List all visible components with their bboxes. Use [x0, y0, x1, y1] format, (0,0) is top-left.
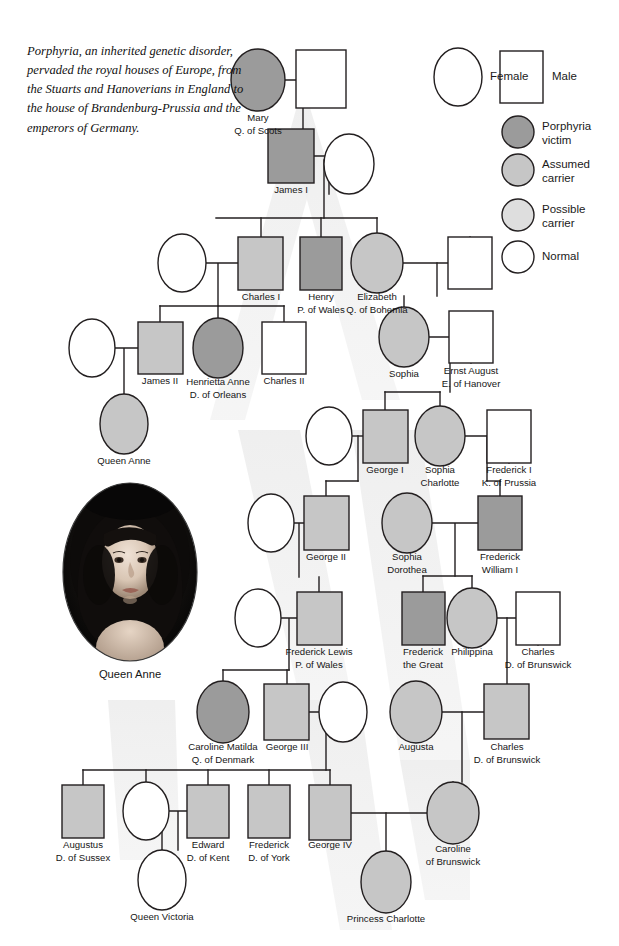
person-label-princess-charlotte: Princess Charlotte [347, 913, 425, 926]
person-node-elizabeth-q-of-bohemia[interactable] [351, 233, 403, 293]
person-node-george-i[interactable] [363, 410, 408, 463]
person-node-sophia-charlotte[interactable] [415, 406, 465, 466]
person-node-augusta[interactable] [390, 681, 442, 743]
legend-assumed-carrier-circle [502, 154, 534, 186]
person-node-augustus-d-of-sussex[interactable] [62, 785, 104, 838]
person-node-frederick-the-great[interactable] [402, 592, 445, 645]
person-node-charles-d-of-brunswick-sr[interactable] [516, 592, 560, 645]
person-label-george-i: George I [366, 464, 403, 477]
person-node-frederick-i-k-of-prussia[interactable] [487, 410, 531, 463]
person-node-edward-d-of-kent[interactable] [187, 785, 229, 838]
person-label-james-ii: James II [142, 375, 178, 388]
person-label-george-ii: George II [306, 551, 346, 564]
person-label-caroline-of-brunswick: Caroline of Brunswick [426, 843, 480, 868]
person-node-charles-d-of-brunswick-jr[interactable] [484, 684, 529, 739]
person-node-george-iv[interactable] [309, 785, 351, 840]
person-label-frederick-lewis-p-of-wales: Frederick Lewis P. of Wales [285, 646, 352, 671]
portrait-caption: Queen Anne [99, 668, 161, 680]
person-label-ernst-august-e-of-hanover: Ernst August E. of Hanover [442, 365, 501, 390]
person-label-henry-p-of-wales: Henry P. of Wales [297, 291, 344, 316]
legend-possible-carrier-circle [502, 199, 534, 231]
relationship-line [206, 263, 238, 306]
person-node-caroline-matilda-q-of-denmark[interactable] [197, 681, 249, 743]
person-node-sophia-dorothea[interactable] [382, 493, 432, 553]
person-label-frederick-i-k-of-prussia: Frederick I K. of Prussia [482, 464, 536, 489]
legend-label-male: Male [552, 70, 577, 84]
person-label-sophia-charlotte: Sophia Charlotte [421, 464, 460, 489]
person-node-james-ii-spouse[interactable] [69, 319, 115, 377]
person-label-sophia: Sophia [389, 368, 419, 381]
person-node-henry-p-of-wales[interactable] [300, 237, 342, 290]
person-label-augusta: Augusta [398, 741, 433, 754]
person-node-mary-spouse[interactable] [296, 50, 346, 108]
person-label-sophia-dorothea: Sophia Dorothea [387, 551, 426, 576]
legend-label-female: Female [490, 70, 528, 84]
person-node-queen-anne[interactable] [100, 394, 148, 454]
person-label-elizabeth-q-of-bohemia: Elizabeth Q. of Bohemia [346, 291, 407, 316]
person-label-frederick-d-of-york: Frederick D. of York [248, 839, 290, 864]
queen-anne-portrait [63, 468, 197, 676]
person-label-frederick-the-great: Frederick the Great [403, 646, 443, 671]
person-node-caroline-of-brunswick[interactable] [427, 782, 479, 844]
person-label-charles-ii: Charles II [263, 375, 304, 388]
person-label-george-iii: George III [266, 741, 309, 754]
person-node-frederick-lewis-spouse[interactable] [235, 589, 281, 647]
person-node-elizabeth-spouse[interactable] [448, 237, 492, 289]
person-node-charles-ii[interactable] [262, 322, 306, 374]
person-node-princess-charlotte[interactable] [361, 851, 411, 913]
person-node-george-i-spouse[interactable] [306, 407, 352, 465]
person-node-george-ii[interactable] [304, 496, 349, 550]
intro-caption: Porphyria, an inherited genetic disorder… [27, 42, 257, 138]
legend-victim-circle [502, 116, 534, 148]
legend-normal-circle [502, 241, 534, 273]
person-node-george-ii-spouse[interactable] [248, 494, 294, 552]
person-node-james-i-spouse[interactable] [324, 134, 374, 194]
person-node-frederick-lewis-p-of-wales[interactable] [297, 592, 342, 645]
legend-label-possible-carrier: Possible carrier [542, 203, 585, 230]
person-label-george-iv: George IV [308, 839, 352, 852]
person-label-charles-d-of-brunswick-jr: Charles D. of Brunswick [474, 741, 541, 766]
person-label-queen-victoria: Queen Victoria [130, 911, 193, 924]
legend-label-normal: Normal [542, 250, 579, 264]
legend-label-assumed-carrier: Assumed carrier [542, 158, 590, 185]
legend-female-ellipse [434, 48, 482, 106]
relationship-line [115, 348, 138, 394]
person-label-edward-d-of-kent: Edward D. of Kent [187, 839, 230, 864]
pedigree-chart-canvas: Porphyria, an inherited genetic disorder… [0, 0, 619, 946]
legend-label-porphyria-victim: Porphyria victim [542, 120, 591, 147]
person-node-charles-i[interactable] [238, 237, 283, 290]
person-label-charles-i: Charles I [242, 291, 280, 304]
person-label-james-i: James I [274, 184, 308, 197]
person-label-queen-anne: Queen Anne [97, 455, 150, 468]
person-label-frederick-william-i: Frederick William I [480, 551, 520, 576]
person-node-ernst-august-e-of-hanover[interactable] [449, 311, 493, 363]
person-label-augustus-d-of-sussex: Augustus D. of Sussex [56, 839, 110, 864]
person-label-caroline-matilda-q-of-denmark: Caroline Matilda Q. of Denmark [188, 741, 257, 766]
person-label-philippina: Philippina [451, 646, 493, 659]
person-node-james-ii[interactable] [138, 322, 183, 374]
person-node-charles-i-spouse[interactable] [158, 234, 206, 292]
person-node-queen-victoria[interactable] [138, 850, 186, 910]
person-node-frederick-d-of-york[interactable] [248, 785, 290, 838]
person-node-george-iii[interactable] [264, 684, 309, 740]
person-label-henrietta-anne-d-of-orleans: Henrietta Anne D. of Orleans [186, 376, 249, 401]
person-node-henrietta-anne-d-of-orleans[interactable] [193, 318, 243, 378]
person-node-frederick-william-i[interactable] [478, 496, 522, 550]
person-label-charles-d-of-brunswick-sr: Charles D. of Brunswick [505, 646, 572, 671]
person-node-philippina[interactable] [447, 588, 497, 648]
person-node-edward-d-of-kent-spouse[interactable] [123, 782, 169, 840]
person-label-mary-q-of-scots: Mary Q. of Scots [234, 112, 281, 137]
person-node-george-iii-spouse[interactable] [319, 682, 367, 742]
